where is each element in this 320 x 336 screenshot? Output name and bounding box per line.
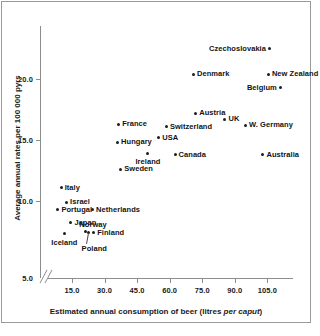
scatter-chart-figure: 15.030.045.060.075.090.0105.0 5.010.015.… xyxy=(0,0,320,336)
data-point-label: Poland xyxy=(82,244,107,253)
data-point-label: France xyxy=(122,119,147,128)
data-point-label: Canada xyxy=(179,150,206,159)
data-point-label: New Zealand xyxy=(272,69,318,78)
data-point[interactable] xyxy=(117,123,120,126)
x-tick xyxy=(235,279,236,283)
data-point-label: Netherlands xyxy=(96,205,140,214)
label-leader-line xyxy=(86,233,89,244)
data-point[interactable] xyxy=(268,47,271,50)
x-tick xyxy=(105,279,106,283)
data-point-label: Australia xyxy=(266,150,299,159)
data-point[interactable] xyxy=(223,118,226,121)
data-point[interactable] xyxy=(60,186,63,189)
data-point[interactable] xyxy=(69,221,72,224)
x-tick xyxy=(72,279,73,283)
data-point-label: Czechoslovakia xyxy=(209,44,266,53)
data-point[interactable] xyxy=(92,231,95,234)
y-tick xyxy=(36,79,40,80)
x-tick xyxy=(137,279,138,283)
data-point[interactable] xyxy=(56,208,59,211)
data-point-label: Austria xyxy=(199,108,225,117)
data-point[interactable] xyxy=(119,168,122,171)
data-point-label: Portugal xyxy=(61,205,92,214)
x-tick-label: 105.0 xyxy=(247,286,287,295)
data-point-label: Switzerland xyxy=(170,122,212,131)
y-axis-label: Average annual rates per 100 000 pyrs xyxy=(13,28,22,268)
data-point[interactable] xyxy=(63,232,66,235)
data-point[interactable] xyxy=(116,141,119,144)
data-point[interactable] xyxy=(279,86,282,89)
data-point-label: Belgium xyxy=(247,83,277,92)
data-point-label: Finland xyxy=(97,228,124,237)
data-point[interactable] xyxy=(194,112,197,115)
data-point-label: UK xyxy=(228,114,239,123)
x-axis-label-italic: per caput xyxy=(224,307,260,316)
data-point[interactable] xyxy=(157,136,160,139)
data-point[interactable] xyxy=(174,153,177,156)
data-point[interactable] xyxy=(244,124,247,127)
data-point[interactable] xyxy=(91,208,94,211)
data-point-label: Iceland xyxy=(51,238,77,247)
data-point[interactable] xyxy=(192,73,195,76)
data-point-label: Italy xyxy=(65,183,80,192)
data-point[interactable] xyxy=(146,152,149,155)
x-axis-label: Estimated annual consumption of beer (li… xyxy=(0,307,312,316)
x-tick xyxy=(267,279,268,283)
x-axis-label-tail: ) xyxy=(260,307,263,316)
data-point[interactable] xyxy=(165,125,168,128)
data-point[interactable] xyxy=(261,153,264,156)
data-point-label: Hungary xyxy=(121,137,152,146)
x-tick xyxy=(170,279,171,283)
data-point[interactable] xyxy=(267,73,270,76)
y-tick xyxy=(36,201,40,202)
data-point-label: Denmark xyxy=(197,69,229,78)
data-point-label: W. Germany xyxy=(249,120,293,129)
data-point-label: Sweden xyxy=(124,164,153,173)
y-tick xyxy=(36,140,40,141)
data-point-label: USA xyxy=(162,133,178,142)
plot-area: 15.030.045.060.075.090.0105.0 5.010.015.… xyxy=(0,0,320,336)
x-axis-label-text: Estimated annual consumption of beer (li… xyxy=(50,307,224,316)
y-tick-label: 5.0 xyxy=(7,274,33,283)
y-axis-line xyxy=(40,26,41,278)
x-tick xyxy=(202,279,203,283)
data-point[interactable] xyxy=(65,201,68,204)
